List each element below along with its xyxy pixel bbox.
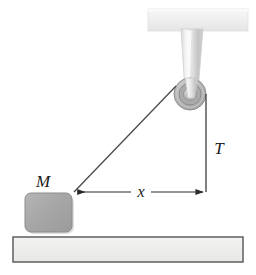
block-body [25,193,72,232]
label-tension-T: T [214,139,225,158]
ground-surface [13,237,243,262]
physics-diagram-figure: M x T [0,0,256,275]
rope-diagonal-segment [74,86,176,192]
ceiling-bar-body [148,9,248,31]
ceiling-bar [148,9,248,31]
ceiling-bar-highlight [148,9,248,12]
label-mass-M: M [35,172,51,191]
block-mass [25,193,74,234]
diagram-canvas: M x T [0,0,256,275]
label-distance-x: x [136,183,144,200]
ground-slab [13,237,243,262]
pulley-wheel [174,78,206,110]
